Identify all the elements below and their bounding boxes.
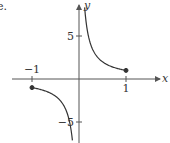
y-tick-label: −5 <box>58 116 74 129</box>
y-tick-label: 5 <box>67 30 74 43</box>
curve-left-branch <box>32 88 72 141</box>
endpoint-dot <box>124 68 128 72</box>
x-tick-label: −1 <box>24 63 40 76</box>
endpoint-dot <box>30 86 34 90</box>
function-graph: e. x y −115−5 <box>0 0 170 143</box>
y-axis-label: y <box>83 0 91 12</box>
panel-label: e. <box>0 0 7 13</box>
x-axis-label: x <box>162 72 169 85</box>
x-tick-label: 1 <box>123 82 130 95</box>
curve-right-branch <box>85 7 126 70</box>
